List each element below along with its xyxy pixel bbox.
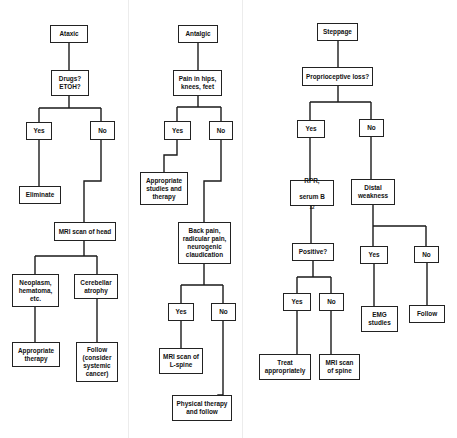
node-distal-no: No — [414, 246, 439, 263]
rpr-line1: RPR, — [299, 177, 325, 185]
node-follow: Follow — [409, 305, 445, 323]
node-drugs-etoh: Drugs? ETOH? — [51, 70, 89, 96]
node-neoplasm: Neoplasm, hematoma, etc. — [12, 274, 59, 307]
node-ataxic: Ataxic — [50, 25, 88, 43]
node-positive: Positive? — [292, 243, 334, 261]
node-physical-therapy: Physical therapy and follow — [172, 395, 232, 421]
node-antalgic: Antalgic — [178, 25, 218, 43]
node-appropriate-therapy: Appropriate therapy — [12, 342, 60, 367]
node-ataxic-yes: Yes — [26, 122, 52, 140]
node-appropriate-studies: Appropriate studies and therapy — [140, 172, 188, 205]
node-proprioceptive-loss: Proprioceptive loss? — [302, 67, 373, 86]
node-ataxic-no: No — [90, 121, 115, 140]
node-rpr-b12: RPR,serum B12 — [290, 180, 334, 206]
node-steppage: Steppage — [317, 23, 358, 41]
node-pain-hips: Pain in hips, knees, feet — [173, 70, 222, 96]
node-positive-yes: Yes — [283, 293, 311, 311]
node-antalgic-no: No — [209, 121, 233, 140]
node-mri-spine: MRI scan of spine — [319, 354, 360, 380]
node-mri-lspine: MRI scan of L-spine — [159, 348, 203, 374]
node-eliminate: Eliminate — [19, 186, 61, 204]
node-follow-systemic-cancer: Follow (consider systemic cancer) — [76, 342, 118, 382]
node-positive-no: No — [319, 293, 344, 311]
node-mri-head: MRI scan of head — [54, 222, 116, 241]
node-distal-yes: Yes — [360, 246, 388, 264]
rpr-subscript: 12 — [309, 205, 314, 210]
node-back-pain-no: No — [211, 303, 236, 321]
node-steppage-yes: Yes — [297, 120, 325, 138]
rpr-line2: serum B — [299, 193, 325, 201]
flowchart-connectors — [0, 0, 457, 438]
node-back-pain: Back pain, radicular pain, neurogenic cl… — [178, 222, 231, 264]
node-antalgic-yes: Yes — [164, 121, 191, 140]
node-treat-appropriately: Treat appropriately — [259, 354, 311, 380]
node-steppage-no: No — [359, 119, 384, 137]
node-back-pain-yes: Yes — [168, 303, 194, 321]
node-emg-studies: EMG studies — [361, 306, 398, 332]
node-distal-weakness: Distal weakness — [351, 179, 395, 205]
node-cerebellar-atrophy: Cerebellar atrophy — [74, 274, 118, 299]
